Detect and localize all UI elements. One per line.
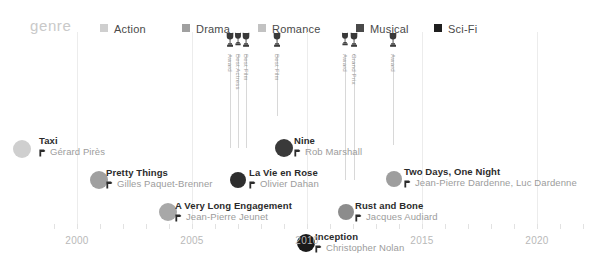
- legend-item-romance[interactable]: Romance: [258, 19, 320, 33]
- axis-tick: [514, 224, 515, 229]
- trophy-icon: [350, 32, 359, 56]
- film-label: NineRob Marshall: [294, 135, 362, 158]
- legend-swatch-icon: [434, 24, 442, 32]
- legend-item-action[interactable]: Action: [100, 19, 146, 33]
- award-label: Award: [390, 54, 396, 72]
- director-chair-icon: [355, 213, 362, 221]
- award-label: Best Actress: [235, 54, 241, 90]
- axis-tick: [560, 224, 561, 229]
- film-title: A Very Long Engagement: [175, 200, 292, 211]
- award-label: Best Film: [243, 54, 249, 81]
- axis-tick: [77, 224, 78, 229]
- film-dot[interactable]: [386, 171, 402, 187]
- film-director-name: Gérard Pirès: [50, 146, 105, 158]
- axis-year-label: 2015: [410, 235, 433, 246]
- legend-swatch-icon: [258, 24, 266, 32]
- film-title: Pretty Things: [106, 167, 213, 178]
- axis-tick: [100, 224, 101, 229]
- film-director-line: Jean-Pierre Jeunet: [175, 211, 292, 223]
- axis-tick: [330, 224, 331, 229]
- film-label: Rust and BoneJacques Audiard: [355, 200, 438, 223]
- award-label: Grand Prix: [351, 54, 357, 85]
- director-chair-icon: [106, 180, 113, 188]
- film-director-line: Rob Marshall: [294, 146, 362, 158]
- film-dot[interactable]: [338, 204, 354, 220]
- legend-swatch-icon: [182, 24, 190, 32]
- axis-tick: [468, 224, 469, 229]
- film-label: La Vie en RoseOlivier Dahan: [249, 167, 319, 190]
- legend-item-sci-fi[interactable]: Sci-Fi: [434, 19, 477, 33]
- film-director-name: Jean-Pierre Dardenne, Luc Dardenne: [415, 177, 577, 189]
- film-director-line: Christopher Nolan: [315, 242, 404, 254]
- axis-tick: [537, 224, 538, 229]
- axis-year-label: 2005: [180, 235, 203, 246]
- axis-tick: [353, 224, 354, 229]
- award-label: Best Film: [274, 54, 280, 81]
- film-title: Two Days, One Night: [404, 166, 577, 177]
- director-chair-icon: [249, 180, 256, 188]
- film-director-name: Gilles Paquet-Brenner: [117, 178, 213, 190]
- axis-tick: [284, 224, 285, 229]
- film-title: Taxi: [39, 135, 105, 146]
- timeline-chart: genre ActionDramaRomanceMusicalSci-Fi Aw…: [0, 0, 599, 257]
- director-chair-icon: [294, 148, 301, 156]
- film-dot[interactable]: [230, 172, 246, 188]
- axis-tick: [192, 224, 193, 229]
- axis-tick: [238, 224, 239, 229]
- award-stem: [345, 54, 346, 180]
- film-title: La Vie en Rose: [249, 167, 319, 178]
- film-director-line: Olivier Dahan: [249, 178, 319, 190]
- gridline: [537, 32, 538, 228]
- axis-tick: [445, 224, 446, 229]
- trophy-icon: [273, 32, 282, 56]
- axis-year-label: 2000: [65, 235, 88, 246]
- film-label: Two Days, One NightJean-Pierre Dardenne,…: [404, 166, 577, 189]
- director-chair-icon: [175, 213, 182, 221]
- legend-item-drama[interactable]: Drama: [182, 19, 230, 33]
- film-director-name: Jean-Pierre Jeunet: [186, 211, 268, 223]
- axis-year-label: 2020: [525, 235, 548, 246]
- film-director-line: Jacques Audiard: [355, 211, 438, 223]
- axis-tick: [422, 224, 423, 229]
- axis-year-label: 2010: [295, 235, 318, 246]
- trophy-icon: [242, 32, 251, 56]
- film-dot[interactable]: [13, 140, 31, 158]
- award-label: Award: [342, 54, 348, 72]
- axis-tick: [54, 224, 55, 229]
- film-title: Inception: [315, 231, 404, 242]
- genre-legend: genre ActionDramaRomanceMusicalSci-Fi: [0, 8, 599, 32]
- film-director-name: Jacques Audiard: [366, 211, 438, 223]
- trophy-icon: [389, 32, 398, 56]
- axis-tick: [169, 224, 170, 229]
- axis-tick: [261, 224, 262, 229]
- trophy-icon: [341, 32, 349, 54]
- film-director-name: Christopher Nolan: [326, 242, 404, 254]
- legend-swatch-icon: [100, 24, 108, 32]
- film-director-line: Jean-Pierre Dardenne, Luc Dardenne: [404, 177, 577, 189]
- axis-tick: [583, 224, 584, 229]
- film-label: TaxiGérard Pirès: [39, 135, 105, 158]
- film-title: Nine: [294, 135, 362, 146]
- axis-tick: [123, 224, 124, 229]
- director-chair-icon: [404, 179, 411, 187]
- award-label: Award: [227, 54, 233, 72]
- film-label: InceptionChristopher Nolan: [315, 231, 404, 254]
- film-director-line: Gilles Paquet-Brenner: [106, 178, 213, 190]
- legend-item-musical[interactable]: Musical: [356, 19, 409, 33]
- gridline: [192, 32, 193, 228]
- film-label: Pretty ThingsGilles Paquet-Brenner: [106, 167, 213, 190]
- film-director-name: Rob Marshall: [305, 146, 362, 158]
- axis-tick: [146, 224, 147, 229]
- film-director-line: Gérard Pirès: [39, 146, 105, 158]
- axis-tick: [399, 224, 400, 229]
- film-dot[interactable]: [275, 139, 293, 157]
- gridline: [77, 32, 78, 228]
- film-label: A Very Long EngagementJean-Pierre Jeunet: [175, 200, 292, 223]
- legend-swatch-icon: [356, 24, 364, 32]
- axis-tick: [307, 224, 308, 229]
- axis-tick: [376, 224, 377, 229]
- film-director-name: Olivier Dahan: [260, 178, 319, 190]
- plot-area: AwardBest ActressBest FilmBest FilmAward…: [0, 32, 599, 257]
- axis-tick: [215, 224, 216, 229]
- director-chair-icon: [39, 148, 46, 156]
